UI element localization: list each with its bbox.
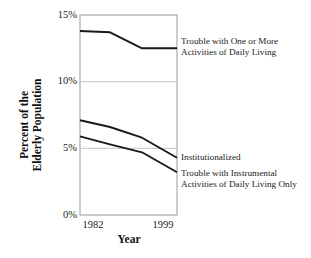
x-tick-label-1982: 1982 [73,219,113,230]
plot-frame [80,15,177,215]
legend-label-trouble-instrumental-adl-only: Trouble with Instrumental Activities of … [181,168,297,190]
chart-figure: Percent of the Elderly Population 15% 10… [0,0,311,258]
x-axis-title: Year [80,233,178,245]
legend-label-institutionalized: Institutionalized [181,152,241,163]
x-tick-label-1999: 1999 [143,219,183,230]
legend-label-trouble-one-or-more-adl: Trouble with One or More Activities of D… [181,36,278,58]
